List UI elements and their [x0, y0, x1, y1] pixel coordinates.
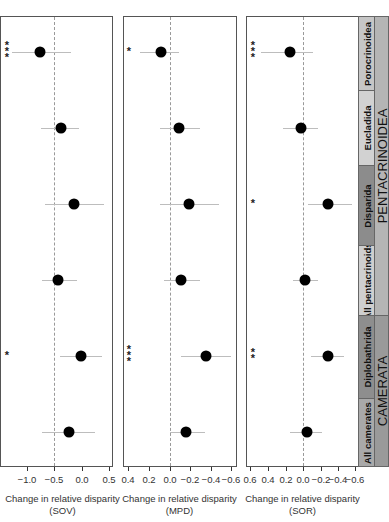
group-camerata: CAMERATA	[374, 315, 389, 467]
clade-diplobathrida: Diplobathrida	[358, 315, 375, 399]
x-axis-title-line: Change in relative disparity	[240, 493, 365, 505]
x-axis-title-line: Change in relative disparity	[0, 493, 125, 505]
tick-mark	[211, 467, 212, 471]
group-label: CAMERATA	[374, 356, 389, 426]
panel-mpd	[123, 16, 237, 467]
clade-label: Eucladida	[361, 106, 372, 151]
tick-mark	[268, 467, 269, 471]
x-axis-title-sov: Change in relative disparity (SOV)	[0, 493, 125, 517]
data-point	[183, 199, 194, 210]
panel-sov	[0, 16, 113, 467]
significance-marker: ***	[5, 43, 9, 61]
data-point	[201, 351, 212, 362]
significance-marker: ***	[127, 347, 131, 365]
clade-label: Diplobathrida	[361, 326, 372, 387]
tick-label: −0.5	[45, 474, 64, 485]
tick-mark	[321, 467, 322, 471]
group-pentacrinoidea: PENTACRINOIDEA	[374, 16, 389, 316]
data-point	[76, 351, 87, 362]
tick-label: −0.6	[222, 474, 241, 485]
tick-label: −0.4	[329, 474, 348, 485]
data-point	[174, 123, 185, 134]
tick-mark	[286, 467, 287, 471]
clade-label: All pentacrinoids	[361, 245, 372, 316]
x-axis-title-sor: Change in relative disparity (SOR)	[240, 493, 365, 517]
reference-line	[54, 17, 55, 466]
data-point	[323, 199, 334, 210]
x-axis-title-line: (MPD)	[117, 505, 242, 517]
data-point	[35, 47, 46, 58]
reference-line	[303, 17, 304, 466]
significance-marker: ***	[251, 43, 255, 61]
tick-mark	[109, 467, 110, 471]
data-point	[299, 275, 310, 286]
data-point	[323, 351, 334, 362]
tick-label: −0.2	[312, 474, 331, 485]
clade-porocrinoidea: Porocrinoidea	[358, 16, 375, 91]
x-axis-title-line: (SOV)	[0, 505, 125, 517]
significance-marker: *	[5, 353, 9, 359]
tick-mark	[82, 467, 83, 471]
data-point	[284, 47, 295, 58]
data-point	[302, 427, 313, 438]
tick-label: −0.6	[346, 474, 365, 485]
data-point	[180, 427, 191, 438]
clade-label: Porocrinoidea	[361, 22, 372, 86]
tick-mark	[303, 467, 304, 471]
tick-mark	[190, 467, 191, 471]
significance-marker: *	[251, 201, 255, 207]
tick-label: 0.0	[296, 474, 309, 485]
tick-label: 0.4	[121, 474, 134, 485]
tick-mark	[355, 467, 356, 471]
clade-disparida: Disparida	[358, 165, 375, 246]
tick-mark	[128, 467, 129, 471]
clade-label: All camerates	[361, 402, 372, 464]
data-point	[296, 123, 307, 134]
data-point	[155, 47, 166, 58]
tick-label: 0.0	[163, 474, 176, 485]
significance-marker: **	[251, 350, 255, 362]
tick-label: −1.0	[18, 474, 37, 485]
panel-sor	[246, 16, 359, 467]
tick-label: 0.6	[243, 474, 256, 485]
x-axis-title-mpd: Change in relative disparity (MPD)	[117, 493, 242, 517]
data-point	[56, 123, 67, 134]
tick-label: −0.2	[181, 474, 200, 485]
group-label: PENTACRINOIDEA	[374, 109, 389, 224]
clade-label: Disparida	[361, 184, 372, 227]
tick-label: 0.2	[142, 474, 155, 485]
data-point	[176, 275, 187, 286]
data-point	[68, 199, 79, 210]
tick-mark	[54, 467, 55, 471]
tick-mark	[231, 467, 232, 471]
clade-eucladida: Eucladida	[358, 90, 375, 166]
data-point	[64, 427, 75, 438]
x-axis-title-line: Change in relative disparity	[117, 493, 242, 505]
tick-label: 0.5	[102, 474, 115, 485]
tick-label: 0.4	[261, 474, 274, 485]
reference-line	[170, 17, 171, 466]
tick-mark	[250, 467, 251, 471]
x-axis-title-line: (SOR)	[240, 505, 365, 517]
data-point	[52, 275, 63, 286]
tick-label: 0.0	[75, 474, 88, 485]
tick-mark	[170, 467, 171, 471]
tick-mark	[27, 467, 28, 471]
clade-all-pentacrinoids: All pentacrinoids	[358, 245, 375, 316]
tick-mark	[338, 467, 339, 471]
tick-label: −0.4	[202, 474, 221, 485]
tick-mark	[149, 467, 150, 471]
tick-label: 0.2	[279, 474, 292, 485]
clade-all-camerates: All camerates	[358, 398, 375, 467]
significance-marker: *	[127, 49, 131, 55]
